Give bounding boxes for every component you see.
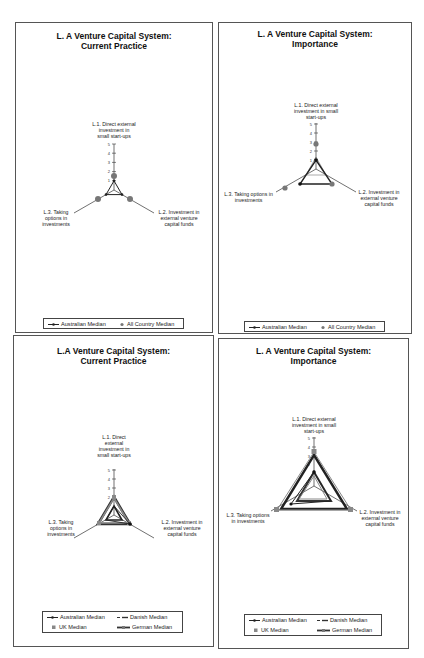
line-marker-icon (249, 325, 260, 330)
radar-plot: 12 34 5 (16, 23, 214, 334)
chart-legend: Australian Median Danish Median UK Media… (42, 611, 183, 633)
line-marker-icon (48, 322, 59, 327)
svg-text:1: 1 (108, 178, 111, 183)
dash-line-icon (317, 618, 328, 623)
axis-label-l1: L.1. Directexternalinvestment insmall st… (84, 434, 144, 458)
axis-label-l1: L.1. Direct externalinvestment in smalls… (276, 102, 356, 120)
axis-label-l2: L.2. Investment inexternal venturecapita… (349, 189, 409, 207)
legend-item-australian-median: Australian Median (48, 321, 106, 327)
legend-item-australian-median: Australian Median (249, 617, 307, 623)
radar-plot: 23 45 (14, 336, 215, 648)
axis-label-l2: L.2. Investment inexternal venturecapita… (149, 209, 209, 227)
svg-text:3: 3 (108, 160, 111, 165)
svg-text:4: 4 (310, 131, 313, 136)
chart-panel-current-practice-by-country: L.A Venture Capital System: Current Prac… (13, 335, 214, 647)
dot-marker-icon (320, 325, 326, 330)
legend-item-all-country-median: All Country Median (320, 324, 375, 330)
svg-text:4: 4 (108, 477, 111, 482)
axis-label-l3: L.3. Taking options ininvestments (221, 191, 276, 203)
radar-plot: 23 45 (219, 339, 410, 650)
legend-item-australian-median: Australian Median (249, 324, 307, 330)
svg-text:5: 5 (108, 142, 111, 147)
legend-item-danish-median: Danish Median (317, 617, 367, 623)
axis-label-l2: L.2. Investment inexternal venturecapita… (350, 509, 410, 527)
svg-text:5: 5 (310, 122, 313, 127)
svg-text:2: 2 (108, 169, 111, 174)
svg-text:4: 4 (108, 151, 111, 156)
line-marker-icon (47, 615, 58, 620)
legend-item-uk-median: UK Median (253, 627, 289, 633)
legend-item-german-median: German Median (117, 624, 172, 630)
svg-text:2: 2 (108, 495, 111, 500)
svg-text:5: 5 (108, 468, 111, 473)
svg-text:4: 4 (308, 445, 311, 450)
svg-text:5: 5 (308, 436, 311, 441)
thick-line-icon (317, 628, 330, 633)
square-marker-icon (51, 625, 57, 630)
svg-text:2: 2 (310, 149, 313, 154)
svg-text:3: 3 (108, 486, 111, 491)
thick-line-icon (117, 625, 130, 630)
radar-plot: 12 34 5 (219, 23, 413, 335)
dash-line-icon (117, 615, 128, 620)
chart-legend: Australian Median All Country Median (43, 318, 184, 329)
axis-label-l1: L.1. Direct externalinvestment in smalls… (274, 416, 354, 434)
axis-label-l3: L.3. Takingoptions ininvestments (36, 209, 76, 227)
chart-panel-current-practice-all-country: L. A Venture Capital System: Current Pra… (15, 22, 213, 333)
chart-panel-importance-by-country: L. A Venture Capital System: Importance … (218, 338, 409, 649)
chart-legend: Australian Median All Country Median (244, 321, 385, 332)
axis-label-l1: L.1. Direct externalinvestment insmall s… (74, 121, 154, 139)
chart-panel-importance-all-country: L. A Venture Capital System: Importance … (218, 22, 412, 334)
axis-label-l2: L.2. Investment inexternal venturecapita… (152, 519, 212, 537)
legend-item-german-median: German Median (317, 627, 372, 633)
legend-item-uk-median: UK Median (51, 624, 87, 630)
axis-label-l3: L.3. Takingoptions ininvestments (41, 519, 81, 537)
legend-item-danish-median: Danish Median (117, 614, 167, 620)
chart-legend: Australian Median Danish Median UK Media… (244, 614, 382, 636)
series-all-country-median (282, 141, 334, 190)
square-marker-icon (253, 628, 259, 633)
legend-item-all-country-median: All Country Median (119, 321, 174, 327)
svg-text:3: 3 (310, 140, 313, 145)
line-marker-icon (249, 618, 260, 623)
axis-label-l3: L.3. Taking optionsin investments (223, 512, 273, 524)
legend-item-australian-median: Australian Median (47, 614, 105, 620)
dot-marker-icon (119, 322, 125, 327)
svg-text:1: 1 (310, 158, 313, 163)
